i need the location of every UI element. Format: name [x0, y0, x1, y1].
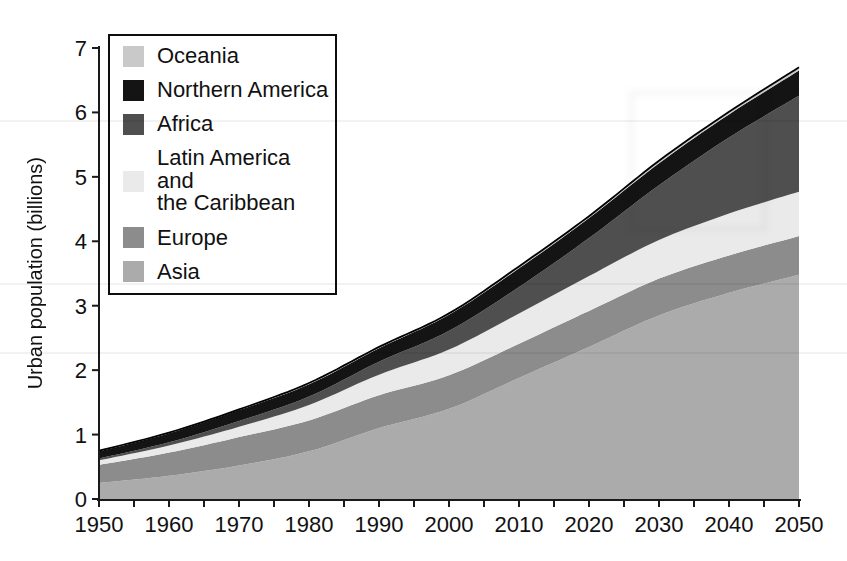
y-tick-label: 6	[75, 100, 87, 125]
legend-swatch-europe	[123, 227, 144, 248]
legend-swatch-africa	[123, 114, 144, 135]
x-tick-label: 1990	[355, 512, 404, 537]
y-tick-label: 3	[75, 294, 87, 319]
legend-item-africa: Africa	[123, 113, 329, 135]
y-tick-label: 1	[75, 423, 87, 448]
x-tick-label: 2000	[425, 512, 474, 537]
y-tick-label: 7	[75, 36, 87, 61]
figure: 1950196019701980199020002010202020302040…	[0, 0, 847, 561]
legend-label-latin-america: Latin America and the Caribbean	[157, 147, 329, 214]
x-tick-label: 1950	[75, 512, 124, 537]
legend-label-africa: Africa	[157, 113, 213, 135]
legend-item-europe: Europe	[123, 227, 329, 249]
legend-label-asia: Asia	[157, 261, 200, 283]
y-tick-label: 5	[75, 165, 87, 190]
y-tick-label: 0	[75, 487, 87, 512]
legend-item-latin-america: Latin America and the Caribbean	[123, 147, 329, 214]
x-tick-label: 2010	[495, 512, 544, 537]
legend-item-oceania: Oceania	[123, 45, 329, 67]
legend-item-asia: Asia	[123, 261, 329, 283]
legend-label-northern-america: Northern America	[157, 79, 328, 101]
x-tick-label: 2020	[565, 512, 614, 537]
legend-swatch-asia	[123, 261, 144, 282]
legend-label-europe: Europe	[157, 227, 228, 249]
x-tick-label: 1980	[285, 512, 334, 537]
y-tick-label: 2	[75, 358, 87, 383]
x-tick-label: 2040	[705, 512, 754, 537]
legend: Oceania Northern America Africa Latin Am…	[108, 34, 337, 295]
legend-swatch-latin-america	[123, 171, 144, 192]
legend-label-oceania: Oceania	[157, 45, 239, 67]
x-tick-label: 2030	[635, 512, 684, 537]
y-axis-title: Urban population (billions)	[20, 48, 50, 499]
legend-swatch-oceania	[123, 46, 144, 67]
y-tick-label: 4	[75, 229, 87, 254]
legend-swatch-northern-america	[123, 80, 144, 101]
x-tick-label: 2050	[775, 512, 824, 537]
legend-item-northern-america: Northern America	[123, 79, 329, 101]
x-tick-label: 1970	[215, 512, 264, 537]
y-axis-title-text: Urban population (billions)	[24, 157, 47, 389]
x-tick-label: 1960	[145, 512, 194, 537]
